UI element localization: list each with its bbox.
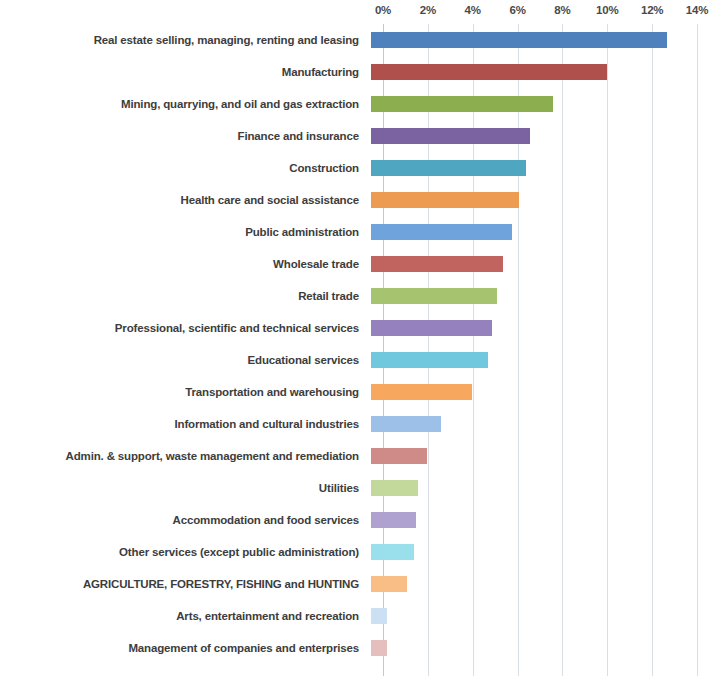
chart-row: Real estate selling, managing, renting a… bbox=[0, 24, 723, 56]
chart-row: Management of companies and enterprises bbox=[0, 632, 723, 664]
category-label: Accommodation and food services bbox=[0, 514, 371, 527]
category-label: Other services (except public administra… bbox=[0, 546, 371, 559]
category-label: Educational services bbox=[0, 354, 371, 367]
bar[interactable] bbox=[371, 288, 497, 304]
category-label: Mining, quarrying, and oil and gas extra… bbox=[0, 98, 371, 111]
chart-row: Finance and insurance bbox=[0, 120, 723, 152]
bar-cell bbox=[371, 440, 723, 472]
bar-cell bbox=[371, 408, 723, 440]
bar-cell bbox=[371, 120, 723, 152]
bar[interactable] bbox=[371, 224, 512, 240]
bar[interactable] bbox=[371, 320, 492, 336]
bar-cell bbox=[371, 344, 723, 376]
bar[interactable] bbox=[371, 192, 519, 208]
chart-row: Professional, scientific and technical s… bbox=[0, 312, 723, 344]
chart-rows: Real estate selling, managing, renting a… bbox=[0, 0, 723, 682]
bar-cell bbox=[371, 632, 723, 664]
bar-cell bbox=[371, 280, 723, 312]
bar-cell bbox=[371, 56, 723, 88]
category-label: Wholesale trade bbox=[0, 258, 371, 271]
bar-cell bbox=[371, 312, 723, 344]
chart-row: Admin. & support, waste management and r… bbox=[0, 440, 723, 472]
chart-row: Public administration bbox=[0, 216, 723, 248]
category-label: Finance and insurance bbox=[0, 130, 371, 143]
bar-cell bbox=[371, 504, 723, 536]
category-label: Transportation and warehousing bbox=[0, 386, 371, 399]
bar-cell bbox=[371, 248, 723, 280]
bar[interactable] bbox=[371, 32, 667, 48]
category-label: AGRICULTURE, FORESTRY, FISHING and HUNTI… bbox=[0, 578, 371, 591]
bar[interactable] bbox=[371, 384, 472, 400]
category-label: Retail trade bbox=[0, 290, 371, 303]
bar-cell bbox=[371, 216, 723, 248]
bar[interactable] bbox=[371, 480, 418, 496]
bar-cell bbox=[371, 184, 723, 216]
chart-row: Arts, entertainment and recreation bbox=[0, 600, 723, 632]
category-label: Health care and social assistance bbox=[0, 194, 371, 207]
bar[interactable] bbox=[371, 608, 387, 624]
category-label: Professional, scientific and technical s… bbox=[0, 322, 371, 335]
bar-cell bbox=[371, 24, 723, 56]
bar[interactable] bbox=[371, 512, 416, 528]
bar-cell bbox=[371, 152, 723, 184]
category-label: Arts, entertainment and recreation bbox=[0, 610, 371, 623]
chart-row: Retail trade bbox=[0, 280, 723, 312]
bar[interactable] bbox=[371, 576, 407, 592]
chart-row: Educational services bbox=[0, 344, 723, 376]
category-label: Admin. & support, waste management and r… bbox=[0, 450, 371, 463]
bar[interactable] bbox=[371, 64, 607, 80]
bar[interactable] bbox=[371, 352, 488, 368]
category-label: Public administration bbox=[0, 226, 371, 239]
chart-row: Utilities bbox=[0, 472, 723, 504]
bar-cell bbox=[371, 472, 723, 504]
bar[interactable] bbox=[371, 448, 427, 464]
bar[interactable] bbox=[371, 160, 526, 176]
chart-row: Information and cultural industries bbox=[0, 408, 723, 440]
chart-row: Accommodation and food services bbox=[0, 504, 723, 536]
bar-cell bbox=[371, 536, 723, 568]
bar-cell bbox=[371, 376, 723, 408]
bar[interactable] bbox=[371, 544, 414, 560]
category-label: Real estate selling, managing, renting a… bbox=[0, 34, 371, 47]
category-label: Manufacturing bbox=[0, 66, 371, 79]
bar[interactable] bbox=[371, 416, 441, 432]
bar-cell bbox=[371, 88, 723, 120]
chart-row: Other services (except public administra… bbox=[0, 536, 723, 568]
bar-chart: 0%2%4%6%8%10%12%14% Real estate selling,… bbox=[0, 0, 723, 682]
chart-row: Wholesale trade bbox=[0, 248, 723, 280]
category-label: Management of companies and enterprises bbox=[0, 642, 371, 655]
category-label: Information and cultural industries bbox=[0, 418, 371, 431]
bar[interactable] bbox=[371, 128, 530, 144]
chart-row: Construction bbox=[0, 152, 723, 184]
chart-row: Health care and social assistance bbox=[0, 184, 723, 216]
bar-cell bbox=[371, 568, 723, 600]
category-label: Construction bbox=[0, 162, 371, 175]
category-label: Utilities bbox=[0, 482, 371, 495]
bar[interactable] bbox=[371, 256, 503, 272]
chart-row: Mining, quarrying, and oil and gas extra… bbox=[0, 88, 723, 120]
bar[interactable] bbox=[371, 96, 553, 112]
chart-row: Manufacturing bbox=[0, 56, 723, 88]
chart-bottom-margin bbox=[0, 676, 723, 682]
bar[interactable] bbox=[371, 640, 387, 656]
chart-row: AGRICULTURE, FORESTRY, FISHING and HUNTI… bbox=[0, 568, 723, 600]
chart-row: Transportation and warehousing bbox=[0, 376, 723, 408]
bar-cell bbox=[371, 600, 723, 632]
